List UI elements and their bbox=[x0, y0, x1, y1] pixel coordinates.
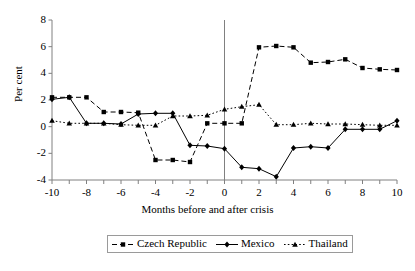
legend-label-mexico: Mexico bbox=[241, 237, 275, 250]
y-axis-title: Per cent bbox=[12, 44, 24, 124]
chart-axes bbox=[49, 20, 398, 184]
chart-figure: -4-202468 -10-8-6-4-20246810 Per cent Mo… bbox=[0, 0, 415, 271]
chart-plot-area bbox=[0, 0, 415, 271]
legend-swatch-thailand bbox=[284, 239, 306, 248]
legend-swatch-mexico bbox=[216, 239, 238, 248]
x-axis-title: Months before and after crisis bbox=[0, 203, 415, 215]
x-tick-label: 10 bbox=[377, 186, 415, 198]
y-tick-label: -2 bbox=[20, 146, 46, 158]
legend-item-mexico[interactable]: Mexico bbox=[216, 237, 275, 250]
y-tick-label: -4 bbox=[20, 173, 46, 185]
legend-item-thailand[interactable]: Thailand bbox=[284, 237, 348, 250]
legend-item-czech-republic[interactable]: Czech Republic bbox=[112, 237, 207, 250]
legend-label-czech-republic: Czech Republic bbox=[137, 237, 207, 250]
y-tick-label: 8 bbox=[20, 13, 46, 25]
legend-label-thailand: Thailand bbox=[309, 237, 348, 250]
legend-swatch-czech-republic bbox=[112, 239, 134, 248]
chart-legend: Czech Republic Mexico Thailand bbox=[107, 235, 353, 253]
